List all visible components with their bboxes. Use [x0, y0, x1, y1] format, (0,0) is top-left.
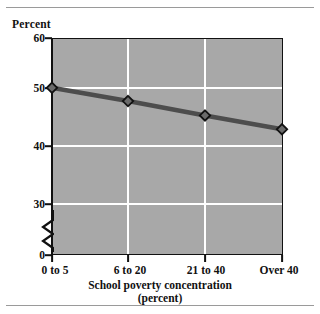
- y-tick-label-50: 50: [21, 82, 45, 94]
- plot-area: [52, 38, 283, 255]
- x-tick-label-21-to-40: 21 to 40: [187, 264, 225, 276]
- gridline-y-30: [53, 203, 282, 205]
- x-tick-mark-over-40: [281, 255, 283, 262]
- gridline-x-6-to-20: [127, 39, 129, 254]
- y-tick-mark-50: [45, 87, 52, 89]
- x-tick-label-over-40: Over 40: [259, 264, 298, 276]
- x-axis-title: School poverty concentration (percent): [0, 279, 320, 305]
- gridline-x-21-to-40: [204, 39, 206, 254]
- y-tick-label-60: 60: [21, 32, 45, 44]
- x-axis-title-line1: School poverty concentration: [88, 279, 232, 291]
- y-tick-mark-30: [45, 203, 52, 205]
- x-tick-mark-6-to-20: [127, 255, 129, 262]
- y-tick-mark-60: [45, 37, 52, 39]
- gridline-y-50: [53, 87, 282, 89]
- x-tick-label-0-to-5: 0 to 5: [42, 264, 69, 276]
- x-tick-mark-21-to-40: [204, 255, 206, 262]
- y-axis-break-icon: [40, 210, 54, 252]
- x-tick-label-6-to-20: 6 to 20: [114, 264, 147, 276]
- x-axis-title-line2: (percent): [0, 292, 320, 305]
- x-tick-mark-0-to-5: [51, 255, 53, 262]
- y-tick-mark-40: [45, 145, 52, 147]
- y-tick-labels: 60 50 40 30 0: [14, 0, 45, 314]
- chart: Percent 60 50 40 30 0: [0, 0, 320, 314]
- y-tick-label-40: 40: [21, 140, 45, 152]
- figure-container: Percent 60 50 40 30 0: [0, 0, 320, 314]
- gridline-y-40: [53, 145, 282, 147]
- y-tick-label-30: 30: [21, 198, 45, 210]
